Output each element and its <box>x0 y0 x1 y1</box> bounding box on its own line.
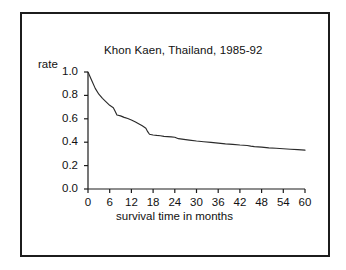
x-tick-label: 42 <box>229 197 251 209</box>
y-tick-label: 1.0 <box>50 66 78 78</box>
x-tick-label: 30 <box>186 197 208 209</box>
x-tick-label: 6 <box>99 197 121 209</box>
x-tick-label: 24 <box>164 197 186 209</box>
x-tick-label: 54 <box>272 197 294 209</box>
x-tick-label: 12 <box>120 197 142 209</box>
y-tick-label: 0.8 <box>50 89 78 101</box>
x-axis-label: survival time in months <box>116 211 233 223</box>
x-axis-ticks <box>88 189 305 193</box>
x-tick-label: 0 <box>77 197 99 209</box>
axis-lines <box>88 72 305 189</box>
x-tick-label: 60 <box>294 197 316 209</box>
x-tick-label: 48 <box>251 197 273 209</box>
y-tick-label: 0.6 <box>50 113 78 125</box>
y-tick-label: 0.4 <box>50 136 78 148</box>
chart-title: Khon Kaen, Thailand, 1985-92 <box>104 45 263 57</box>
y-tick-label: 0.2 <box>50 160 78 172</box>
survival-curve-plot <box>0 0 346 270</box>
x-tick-label: 36 <box>207 197 229 209</box>
survival-curve-line <box>88 72 305 150</box>
y-tick-label: 0.0 <box>50 183 78 195</box>
x-tick-label: 18 <box>142 197 164 209</box>
